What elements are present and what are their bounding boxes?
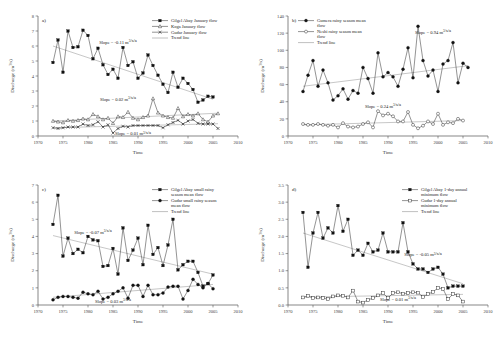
svg-text:1: 1 — [32, 119, 35, 124]
svg-text:4: 4 — [32, 74, 35, 79]
four-panel-discharge-figure: 0123456781970197519801985199019952000200… — [0, 0, 500, 338]
svg-text:1995: 1995 — [408, 309, 418, 314]
svg-text:100: 100 — [277, 48, 285, 53]
svg-text:3.5: 3.5 — [278, 183, 284, 188]
svg-text:Slope = 0.24 m3/s/a: Slope = 0.24 m3/s/a — [365, 102, 401, 109]
svg-text:Time: Time — [133, 150, 144, 155]
svg-text:Trend line: Trend line — [317, 40, 335, 45]
svg-text:Slope = 0.94 m3/s/a: Slope = 0.94 m3/s/a — [415, 28, 451, 35]
svg-text:2010: 2010 — [233, 309, 243, 314]
svg-text:1970: 1970 — [33, 309, 43, 314]
svg-text:40: 40 — [279, 99, 284, 104]
svg-text:d): d) — [292, 187, 297, 192]
svg-text:Trend line: Trend line — [421, 209, 439, 214]
svg-text:1.0: 1.0 — [278, 268, 284, 273]
svg-text:2005: 2005 — [458, 309, 468, 314]
svg-text:1975: 1975 — [58, 309, 68, 314]
svg-text:6: 6 — [32, 200, 35, 205]
svg-text:1985: 1985 — [358, 140, 368, 145]
svg-text:Slope = 0.01 m3/s/a: Slope = 0.01 m3/s/a — [380, 295, 416, 302]
svg-text:0: 0 — [32, 134, 35, 139]
svg-text:20: 20 — [279, 117, 284, 122]
svg-text:140: 140 — [277, 14, 285, 19]
panel-a: 0123456781970197519801985199019952000200… — [0, 0, 250, 169]
svg-text:mean flow: mean flow — [171, 203, 191, 208]
svg-text:7: 7 — [32, 183, 35, 188]
svg-text:2.5: 2.5 — [278, 217, 284, 222]
svg-text:Time: Time — [383, 150, 394, 155]
svg-text:2010: 2010 — [483, 309, 493, 314]
svg-text:3: 3 — [32, 251, 35, 256]
svg-text:1990: 1990 — [383, 140, 393, 145]
svg-text:1990: 1990 — [383, 309, 393, 314]
svg-text:1975: 1975 — [308, 309, 318, 314]
svg-text:minimum flow: minimum flow — [421, 192, 449, 197]
svg-text:0.5: 0.5 — [278, 286, 284, 291]
svg-text:6: 6 — [32, 44, 35, 49]
svg-text:season mean flow: season mean flow — [171, 192, 204, 197]
svg-text:Trend line: Trend line — [171, 35, 189, 40]
svg-text:1980: 1980 — [333, 140, 343, 145]
svg-text:80: 80 — [279, 65, 284, 70]
svg-text:2: 2 — [32, 268, 35, 273]
svg-text:0: 0 — [32, 303, 35, 308]
svg-text:1970: 1970 — [283, 140, 293, 145]
svg-text:8: 8 — [32, 14, 35, 19]
svg-text:3: 3 — [32, 89, 35, 94]
svg-text:Time: Time — [383, 319, 394, 324]
svg-text:1990: 1990 — [133, 309, 143, 314]
svg-text:Discharge (m3/s): Discharge (m3/s) — [258, 59, 265, 93]
svg-text:60: 60 — [279, 82, 284, 87]
svg-text:Slope = -0.05 m3/s/a: Slope = -0.05 m3/s/a — [404, 251, 442, 258]
svg-text:Time: Time — [133, 319, 144, 324]
svg-text:1985: 1985 — [108, 140, 118, 145]
svg-text:2005: 2005 — [208, 309, 218, 314]
svg-text:Discharge (m3/s): Discharge (m3/s) — [258, 228, 265, 262]
svg-text:2.0: 2.0 — [278, 234, 284, 239]
svg-text:0.0: 0.0 — [278, 303, 284, 308]
panel-c: 0123456719701975198019851990199520002005… — [0, 169, 250, 338]
svg-text:Gudar January flow: Gudar January flow — [171, 30, 207, 35]
svg-text:2000: 2000 — [433, 140, 443, 145]
svg-text:Slope = 0.03 m3/s/a: Slope = 0.03 m3/s/a — [95, 297, 131, 304]
svg-text:5: 5 — [32, 59, 35, 64]
svg-text:5: 5 — [32, 217, 35, 222]
panel-d: 0.00.51.01.52.02.53.03.51970197519801985… — [250, 169, 500, 338]
svg-text:1980: 1980 — [333, 309, 343, 314]
svg-text:1995: 1995 — [158, 309, 168, 314]
svg-text:Slope = 0.02 m3/s/a: Slope = 0.02 m3/s/a — [100, 95, 136, 102]
svg-text:0: 0 — [282, 134, 285, 139]
svg-text:1990: 1990 — [133, 140, 143, 145]
svg-text:Trend line: Trend line — [171, 209, 189, 214]
svg-text:1980: 1980 — [83, 309, 93, 314]
svg-text:flow: flow — [317, 23, 326, 28]
svg-text:4: 4 — [32, 234, 35, 239]
svg-text:1995: 1995 — [158, 140, 168, 145]
svg-text:1975: 1975 — [308, 140, 318, 145]
svg-text:Discharge (m3/s): Discharge (m3/s) — [8, 228, 15, 262]
svg-text:2010: 2010 — [483, 140, 493, 145]
svg-text:7: 7 — [32, 29, 35, 34]
svg-text:flow: flow — [317, 34, 326, 39]
svg-text:Gilgel Abay January flow: Gilgel Abay January flow — [171, 18, 218, 23]
svg-text:2000: 2000 — [433, 309, 443, 314]
svg-text:1985: 1985 — [358, 309, 368, 314]
svg-text:2005: 2005 — [208, 140, 218, 145]
svg-text:2005: 2005 — [458, 140, 468, 145]
svg-text:Koga January flow: Koga January flow — [171, 24, 206, 29]
svg-text:1970: 1970 — [33, 140, 43, 145]
svg-text:a): a) — [42, 18, 46, 23]
panel-b: 0204060801001201401970197519801985199019… — [250, 0, 500, 169]
svg-text:120: 120 — [277, 31, 285, 36]
svg-text:1995: 1995 — [408, 140, 418, 145]
svg-text:minimum flow: minimum flow — [421, 203, 449, 208]
svg-text:1985: 1985 — [108, 309, 118, 314]
svg-text:3.0: 3.0 — [278, 200, 284, 205]
svg-text:1970: 1970 — [283, 309, 293, 314]
svg-text:Slope = 0.01 m3/s/a: Slope = 0.01 m3/s/a — [115, 130, 151, 137]
svg-text:2000: 2000 — [183, 140, 193, 145]
svg-text:1980: 1980 — [83, 140, 93, 145]
svg-text:b): b) — [292, 18, 297, 23]
svg-text:2000: 2000 — [183, 309, 193, 314]
svg-text:2: 2 — [32, 104, 35, 109]
